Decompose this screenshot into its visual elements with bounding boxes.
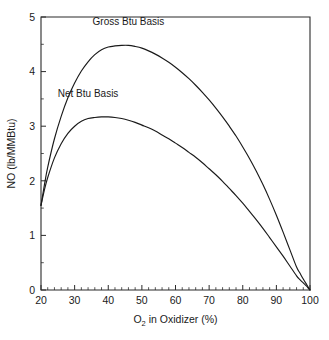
axis-frame xyxy=(41,17,310,290)
x-axis-title: O2 in Oxidizer (%) xyxy=(133,313,217,328)
y-tick-label-1: 1 xyxy=(29,229,35,241)
y-tick-label-5: 5 xyxy=(29,11,35,23)
series-label-gross-btu-basis: Gross Btu Basis xyxy=(93,16,165,27)
curve-gross-btu-basis xyxy=(41,45,310,290)
x-axis-tick-labels: 2030405060708090100 xyxy=(35,294,319,306)
x-tick-label-100: 100 xyxy=(301,294,319,306)
x-tick-label-30: 30 xyxy=(69,294,81,306)
x-tick-label-20: 20 xyxy=(35,294,47,306)
x-tick-label-90: 90 xyxy=(271,294,283,306)
y-tick-label-4: 4 xyxy=(29,65,35,77)
x-tick-label-80: 80 xyxy=(237,294,249,306)
y-tick-label-0: 0 xyxy=(29,284,35,296)
plot-frame xyxy=(41,17,310,290)
no-vs-oxygen-line-chart: 2030405060708090100 012345 Gross Btu Bas… xyxy=(0,0,329,340)
series-annotations: Gross Btu BasisNet Btu Basis xyxy=(58,16,164,99)
chart-figure: 2030405060708090100 012345 Gross Btu Bas… xyxy=(0,0,329,340)
x-tick-label-40: 40 xyxy=(102,294,114,306)
x-tick-label-60: 60 xyxy=(170,294,182,306)
y-tick-label-3: 3 xyxy=(29,120,35,132)
series-label-net-btu-basis: Net Btu Basis xyxy=(58,88,119,99)
y-axis-tick-labels: 012345 xyxy=(29,11,35,296)
x-tick-label-50: 50 xyxy=(136,294,148,306)
data-curves xyxy=(41,45,310,290)
curve-net-btu-basis xyxy=(41,117,310,290)
y-tick-label-2: 2 xyxy=(29,175,35,187)
x-tick-label-70: 70 xyxy=(203,294,215,306)
y-axis-title: NO (lb/MMBtu) xyxy=(5,118,17,188)
x-title-rest: in Oxidizer (%) xyxy=(146,313,218,325)
x-title-main: O xyxy=(133,313,141,325)
